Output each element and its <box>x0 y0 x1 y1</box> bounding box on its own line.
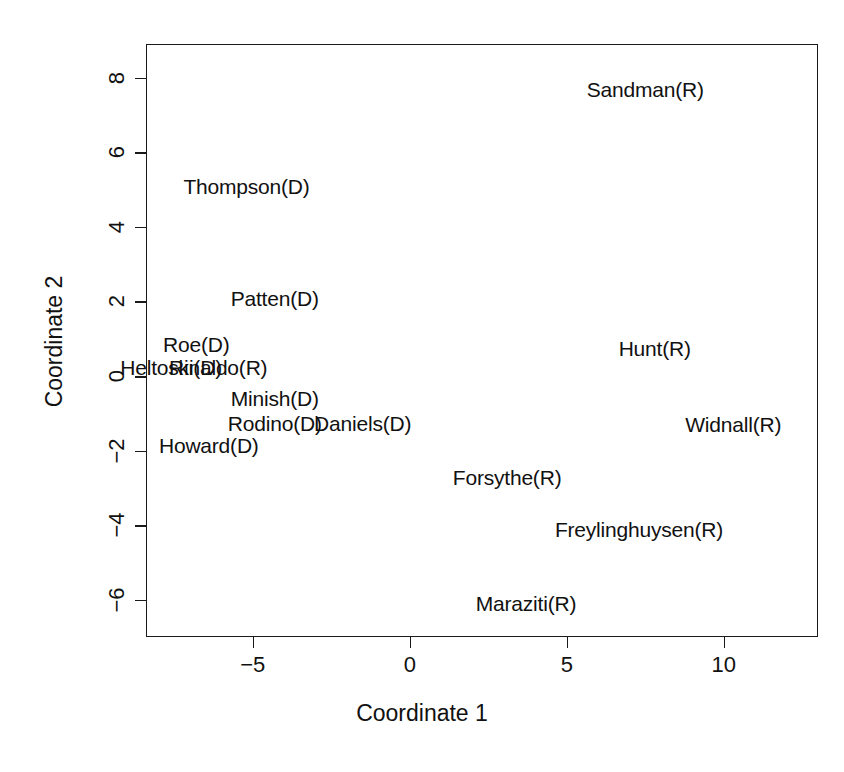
y-axis-tick <box>135 152 146 154</box>
y-axis-tick-label: −2 <box>105 438 129 464</box>
data-point-label: Patten(D) <box>231 287 319 308</box>
plot-data-area: Sandman(R)Thompson(D)Patten(D)Roe(D)Hunt… <box>146 44 818 637</box>
x-axis-tick-label: 5 <box>561 653 573 677</box>
y-axis-tick <box>135 600 146 602</box>
data-point-label: Forsythe(R) <box>453 466 562 487</box>
y-axis-tick-label: −6 <box>105 587 129 613</box>
x-axis-tick <box>724 637 726 648</box>
mds-scatter-plot-figure: Sandman(R)Thompson(D)Patten(D)Roe(D)Hunt… <box>0 0 844 772</box>
x-axis-tick-label: 10 <box>712 653 736 677</box>
data-point-label: Daniels(D) <box>314 412 411 433</box>
data-point-label: Rodino(D) <box>228 412 322 433</box>
y-axis-tick <box>135 376 146 378</box>
data-point-label: Minish(D) <box>231 388 319 409</box>
y-axis-tick-label: −4 <box>105 512 129 538</box>
y-axis-tick <box>135 301 146 303</box>
data-point-label: Hunt(R) <box>619 337 691 358</box>
data-point-label: Roe(D) <box>163 334 229 355</box>
y-axis-tick-label: 6 <box>105 139 129 165</box>
y-axis-tick-label: 2 <box>105 288 129 314</box>
y-axis-tick <box>135 78 146 80</box>
data-point-label: Maraziti(R) <box>476 593 576 614</box>
data-point-label: Widnall(R) <box>685 414 781 435</box>
data-point-label: Sandman(R) <box>587 78 704 99</box>
x-axis-tick-label: −5 <box>240 653 265 677</box>
y-axis-tick <box>135 525 146 527</box>
y-axis-tick-label: 0 <box>105 363 129 389</box>
y-axis-title: Coordinate 2 <box>41 0 68 692</box>
y-axis-tick <box>135 451 146 453</box>
data-point-label: Rinaldo(R) <box>169 356 267 377</box>
x-axis-tick <box>567 637 569 648</box>
data-point-label: Howard(D) <box>159 434 259 455</box>
y-axis-tick <box>135 227 146 229</box>
x-axis-tick <box>253 637 255 648</box>
x-axis-tick <box>410 637 412 648</box>
data-point-label: Thompson(D) <box>183 175 309 196</box>
y-axis-tick-label: 4 <box>105 214 129 240</box>
x-axis-title: Coordinate 1 <box>0 700 844 727</box>
data-point-label: Freylinghuysen(R) <box>555 518 723 539</box>
y-axis-tick-label: 8 <box>105 65 129 91</box>
x-axis-tick-label: 0 <box>404 653 416 677</box>
